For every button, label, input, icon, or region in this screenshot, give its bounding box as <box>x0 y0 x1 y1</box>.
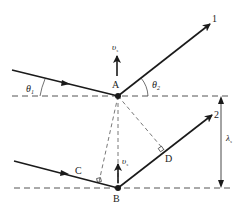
label-A: A <box>112 79 120 90</box>
label-D: D <box>165 153 172 164</box>
label-C: C <box>75 165 82 176</box>
label-lambda: λs <box>225 133 232 144</box>
ray1-reflected <box>118 24 210 96</box>
label-theta2: θ2 <box>152 79 160 91</box>
ray2-reflected <box>118 115 212 188</box>
reflection-diagram: A B C D 1 2 θ1 θ2 υs υs λs <box>0 0 249 211</box>
label-velocity-A: υs <box>112 42 118 53</box>
right-angle-C-icon <box>97 178 102 183</box>
label-B: B <box>113 193 120 204</box>
label-ray1: 1 <box>212 13 217 24</box>
angle-theta2-arc <box>141 78 148 96</box>
dashed-A-to-D <box>118 96 164 150</box>
point-A <box>115 93 121 99</box>
ray1-incident-arrow-icon <box>61 80 70 86</box>
angle-theta1-arc <box>40 79 45 96</box>
label-ray2: 2 <box>214 109 219 120</box>
label-velocity-B: υs <box>122 156 128 167</box>
label-theta1: θ1 <box>26 83 34 95</box>
point-B <box>115 185 121 191</box>
dashed-A-to-C <box>99 96 118 182</box>
